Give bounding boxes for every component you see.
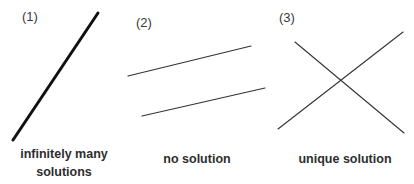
- panel-3-caption: unique solution: [287, 150, 403, 168]
- panel-1-caption-line-2: solutions: [4, 163, 124, 181]
- panel-1-caption-line-1: infinitely many: [4, 145, 124, 163]
- linear-systems-diagram: (1) (2) (3) infinitely many solutions no…: [0, 0, 414, 184]
- panel-2-caption: no solution: [150, 150, 244, 168]
- panel-1-coincident-line: [13, 13, 98, 140]
- panel-3-intersecting-line-descending: [295, 42, 404, 133]
- panel-2-parallel-line-lower: [142, 88, 265, 116]
- panel-3-number: (3): [279, 10, 295, 25]
- panel-1-number: (1): [22, 9, 38, 24]
- panel-1-caption: infinitely many solutions: [4, 145, 124, 181]
- panel-2-number: (2): [136, 15, 152, 30]
- panel-3-intersecting-line-ascending: [278, 32, 403, 129]
- panel-2-parallel-line-upper: [128, 46, 251, 76]
